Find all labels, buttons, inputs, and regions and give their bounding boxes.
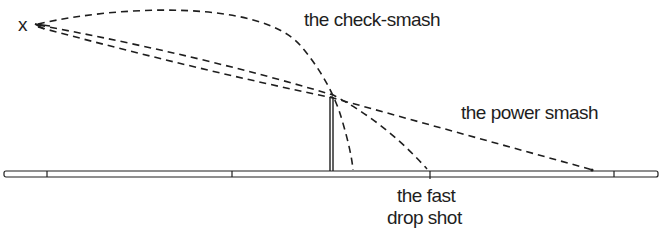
net-post — [330, 97, 333, 171]
power-smash-trajectory — [38, 27, 593, 170]
court-floor — [4, 171, 658, 179]
power-smash-label: the power smash — [461, 103, 598, 122]
check-smash-trajectory — [38, 10, 353, 170]
fast-drop-shot-trajectory — [38, 25, 427, 169]
power-smash-landing-dot — [590, 168, 593, 171]
badminton-shot-diagram: x the check-smash the power smash the fa… — [0, 0, 666, 244]
fast-drop-shot-label-line1: the fast — [397, 186, 455, 205]
check-smash-label: the check-smash — [304, 10, 440, 29]
origin-marker: x — [18, 15, 27, 34]
fast-drop-shot-label-line2: drop shot — [387, 208, 462, 227]
